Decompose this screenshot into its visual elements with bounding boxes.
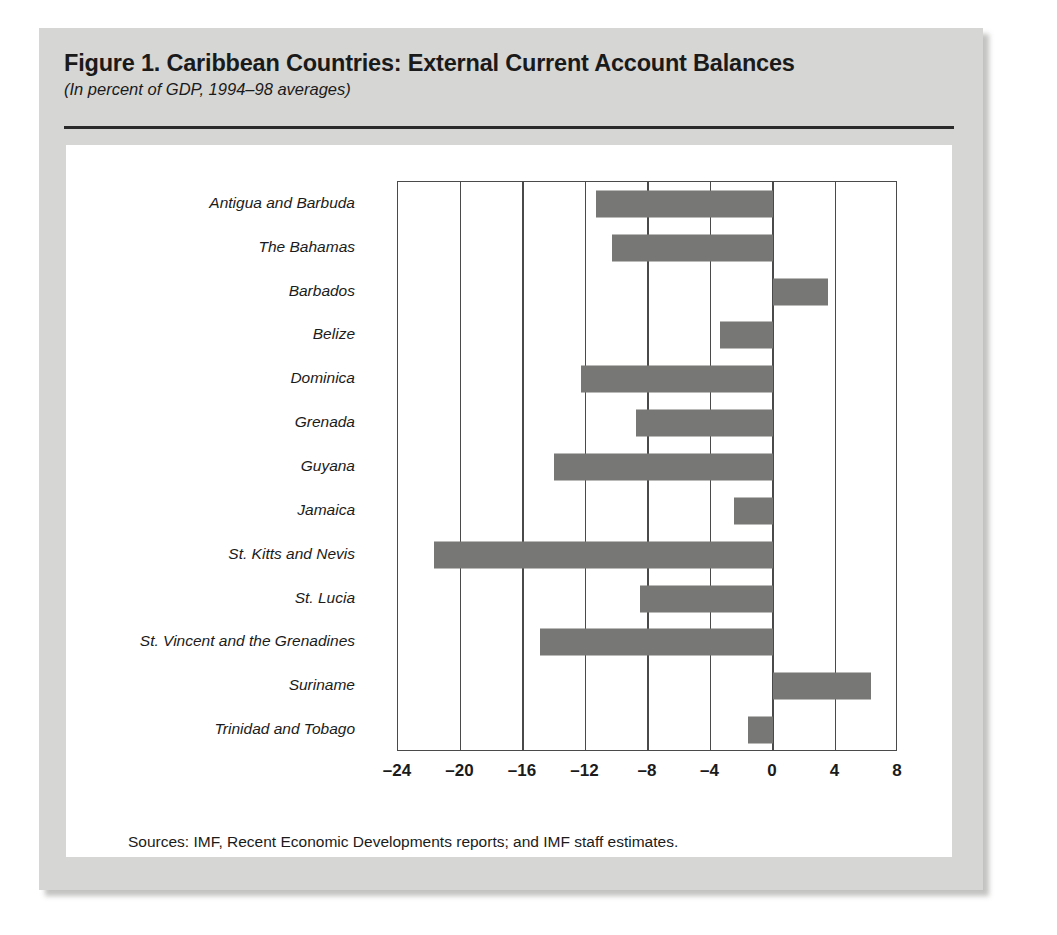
y-axis-label: St. Vincent and the Grenadines: [65, 632, 355, 650]
y-axis-label: St. Lucia: [65, 589, 355, 607]
x-tick-label: –4: [700, 761, 719, 781]
y-axis-label: Guyana: [65, 457, 355, 475]
x-axis-ticks: –24–20–16–12–8–4048: [397, 753, 897, 793]
figure-card: Figure 1. Caribbean Countries: External …: [39, 28, 983, 890]
x-tick-label: 0: [767, 761, 776, 781]
y-axis-label: St. Kitts and Nevis: [65, 545, 355, 563]
title-divider: [64, 126, 954, 129]
page-background: Figure 1. Caribbean Countries: External …: [0, 0, 1057, 935]
gridline: [522, 182, 524, 750]
x-tick-label: –12: [570, 761, 598, 781]
y-axis-label: Grenada: [65, 413, 355, 431]
bar: [748, 717, 773, 744]
bar: [636, 410, 774, 437]
title-block: Figure 1. Caribbean Countries: External …: [64, 50, 954, 99]
y-axis-label: Suriname: [65, 676, 355, 694]
x-tick-label: –8: [638, 761, 657, 781]
bar: [554, 454, 773, 481]
y-axis-label: Antigua and Barbuda: [65, 194, 355, 212]
y-axis-label: Jamaica: [65, 501, 355, 519]
bar: [596, 190, 773, 217]
bar: [581, 366, 773, 393]
bar: [773, 673, 871, 700]
chart-area: Antigua and BarbudaThe BahamasBarbadosBe…: [66, 145, 952, 857]
bar: [612, 234, 773, 261]
y-axis-label: Barbados: [65, 282, 355, 300]
bar: [773, 278, 828, 305]
gridline: [835, 182, 837, 750]
gridline: [460, 182, 462, 750]
x-tick-label: 4: [830, 761, 839, 781]
source-note: Sources: IMF, Recent Economic Developmen…: [128, 833, 678, 851]
bar: [540, 629, 773, 656]
figure-inner: Figure 1. Caribbean Countries: External …: [39, 28, 983, 890]
bar: [434, 541, 773, 568]
plot-box: [397, 181, 897, 751]
y-axis-label: The Bahamas: [65, 238, 355, 256]
x-tick-label: –20: [445, 761, 473, 781]
figure-subtitle: (In percent of GDP, 1994–98 averages): [64, 80, 954, 99]
x-tick-label: –24: [383, 761, 411, 781]
y-axis-labels: Antigua and BarbudaThe BahamasBarbadosBe…: [66, 181, 369, 751]
bar: [720, 322, 773, 349]
bar: [640, 585, 773, 612]
chart-panel: Antigua and BarbudaThe BahamasBarbadosBe…: [66, 145, 952, 857]
bar: [734, 497, 773, 524]
y-axis-label: Trinidad and Tobago: [65, 720, 355, 738]
y-axis-label: Belize: [65, 325, 355, 343]
figure-title: Figure 1. Caribbean Countries: External …: [64, 50, 954, 77]
x-tick-label: 8: [892, 761, 901, 781]
y-axis-label: Dominica: [65, 369, 355, 387]
x-tick-label: –16: [508, 761, 536, 781]
